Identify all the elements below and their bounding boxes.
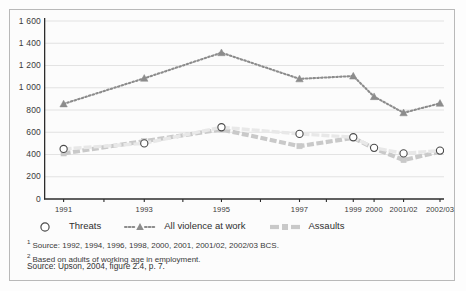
data-point-threats: [400, 150, 407, 157]
line-chart-svg: [44, 18, 444, 202]
x-axis-tick-label: 1991: [55, 205, 72, 214]
x-axis-tick-label: 1995: [213, 205, 230, 214]
footnote-text: Source: 1992, 1994, 1996, 1998, 2000, 20…: [32, 241, 278, 250]
chart-legend: ThreatsAll violence at workAssaults: [28, 217, 366, 233]
legend-item-label: Threats: [69, 220, 101, 231]
y-axis-tick-label: 1 600: [19, 17, 41, 26]
data-point-threats: [436, 147, 443, 154]
data-point-threats: [218, 124, 225, 131]
legend-item: All violence at work: [123, 219, 267, 231]
y-axis-tick-labels: 02004006008001 0001 2001 4001 600: [0, 18, 41, 202]
x-axis-tick-label: 1993: [136, 205, 153, 214]
x-axis-tick-label: 2001/02: [389, 205, 417, 214]
y-axis-tick-label: 1 200: [19, 61, 41, 70]
figure-container: 02004006008001 0001 2001 4001 600 199119…: [0, 0, 466, 291]
legend-marker-open-circle-icon: [28, 219, 62, 231]
x-axis-tick-label: 1997: [291, 205, 308, 214]
x-axis-tick-label: 2000: [365, 205, 382, 214]
source-citation: Source: Upson, 2004, figure 2.4, p. 7.: [27, 261, 165, 271]
y-axis-tick-label: 800: [26, 106, 41, 115]
data-point-threats: [350, 134, 357, 141]
legend-item-label: All violence at work: [164, 220, 245, 231]
x-axis-tick-labels: 1991199319951997199920002001/022002/03: [0, 203, 466, 217]
series-line-all-violence: [64, 53, 440, 113]
footnote-marker: 1: [27, 238, 30, 245]
data-point-threats: [296, 130, 303, 137]
y-axis-tick-label: 1 400: [19, 39, 41, 48]
y-axis-tick-label: 1 000: [19, 83, 41, 92]
x-axis-tick-label: 2002/03: [426, 205, 454, 214]
legend-marker-dashed-square-icon: [268, 219, 302, 231]
data-point-threats: [370, 144, 377, 151]
x-axis-tick-label: 1999: [345, 205, 362, 214]
data-point-threats: [141, 140, 148, 147]
y-axis-tick-label: 400: [26, 150, 41, 159]
footnote: 1Source: 1992, 1994, 1996, 1998, 2000, 2…: [27, 237, 447, 251]
series-line-threats: [64, 127, 440, 153]
plot-area: [44, 18, 444, 202]
legend-item: Assaults: [268, 219, 367, 231]
legend-marker-dotted-triangle-icon: [123, 219, 157, 231]
y-axis-tick-label: 200: [26, 172, 41, 181]
footnote-marker: 2: [27, 252, 30, 259]
y-axis-tick-label: 600: [26, 128, 41, 137]
data-point-assaults: [401, 157, 406, 162]
data-point-all-violence: [60, 100, 67, 107]
data-point-threats: [60, 145, 67, 152]
legend-item-label: Assaults: [309, 220, 345, 231]
data-point-all-violence: [218, 49, 225, 56]
data-point-assaults: [297, 144, 302, 149]
legend-item: Threats: [28, 219, 123, 231]
